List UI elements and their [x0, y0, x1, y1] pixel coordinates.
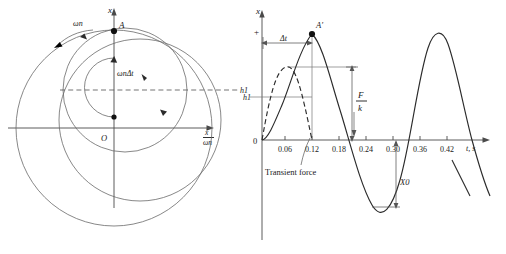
- transient-force-annotation: Transient force: [265, 138, 317, 177]
- phase-horizontal-axis: [8, 125, 214, 130]
- figure-root: x ẋ ωn h1 ωn ωnΔt: [0, 0, 506, 254]
- response-h1-label: h1: [243, 93, 251, 102]
- response-zero-label: 0: [253, 136, 257, 146]
- response-plus-label: +: [254, 27, 259, 37]
- response-vertical-axis-label: x: [255, 6, 260, 16]
- transient-force-curve: [262, 67, 312, 140]
- response-fk-numerator: F: [357, 90, 364, 100]
- phase-angle-arc: [85, 58, 115, 117]
- response-delta-t-dimension: [261, 37, 313, 49]
- tick-label-4: 0.30: [386, 145, 400, 154]
- phase-plane-diagram: x ẋ ωn h1 ωn ωnΔt: [8, 5, 248, 226]
- tick-label-1: 0.12: [305, 145, 319, 154]
- phase-omega-n-label: ωn: [73, 19, 83, 28]
- phase-angle-label: ωnΔt: [117, 69, 134, 78]
- response-peak-marker: [309, 31, 315, 37]
- response-x0-label: X0: [399, 177, 410, 187]
- response-peak-label: A′: [315, 20, 323, 30]
- phase-origin-label: O: [101, 133, 107, 143]
- phase-vertical-axis: [111, 8, 116, 208]
- phase-vertical-axis-label: x: [107, 5, 112, 15]
- phase-arrowhead-small: [142, 74, 148, 81]
- phase-inner-centre-marker: [111, 114, 116, 119]
- response-fk-label: F k: [356, 90, 367, 113]
- tick-label-2: 0.18: [332, 145, 346, 154]
- response-delta-t-label: Δt: [279, 34, 288, 43]
- phase-axis-numerator: ẋ: [204, 128, 209, 137]
- phase-point-a-marker: [111, 28, 117, 34]
- response-vertical-axis: [259, 10, 264, 240]
- response-curve-tail: [452, 160, 470, 196]
- phase-medium-circle: [59, 39, 221, 201]
- tick-label-6: 0.42: [440, 145, 454, 154]
- transient-force-label: Transient force: [265, 167, 317, 177]
- figure-svg: x ẋ ωn h1 ωn ωnΔt: [0, 0, 506, 254]
- response-fk-denominator: k: [358, 103, 363, 113]
- phase-arrowhead-medium: [160, 110, 167, 117]
- time-response-plot: x + 0 0.06 0.12 0.18 0.24 0.30 0.36 0.42…: [243, 6, 490, 240]
- tick-label-3: 0.24: [359, 145, 373, 154]
- tick-label-5: 0.36: [413, 145, 427, 154]
- response-curve: [262, 33, 490, 212]
- tick-label-0: 0.06: [278, 145, 292, 154]
- response-time-axis: [262, 137, 490, 142]
- phase-point-a-label: A: [118, 20, 125, 30]
